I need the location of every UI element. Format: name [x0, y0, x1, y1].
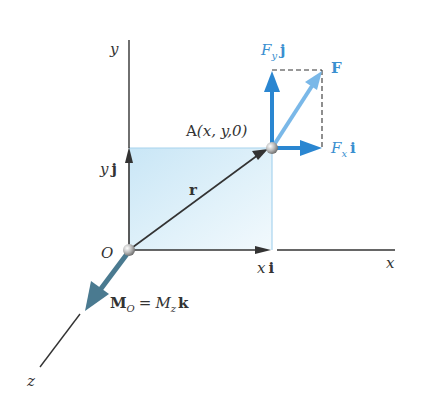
yj-var: y: [99, 160, 109, 178]
fx-var: F: [330, 139, 342, 157]
moment-equation-label: MO=Mzk: [110, 294, 189, 314]
fy-var: F: [260, 41, 272, 59]
moment-diagram: y x z O yj xi r A(x, y,0) Fyj F Fxi MO=M…: [0, 0, 425, 408]
z-axis-label: z: [26, 372, 35, 390]
yj-unit: j: [109, 160, 116, 178]
x-axis-label: x: [386, 254, 395, 272]
moment-unit: k: [178, 294, 189, 312]
f-resultant-label: F: [331, 59, 342, 77]
point-a-marker: [266, 142, 278, 154]
fy-unit: j: [278, 41, 285, 59]
moment-rhs: M: [154, 294, 171, 312]
point-a-label: A(x, y,0): [185, 122, 247, 140]
fy-sub: y: [270, 50, 277, 61]
yj-label: yj: [99, 160, 117, 178]
moment-equals: =: [139, 294, 152, 312]
fx-unit: i: [350, 139, 356, 157]
xi-unit: i: [268, 259, 274, 277]
y-axis-label: y: [109, 40, 119, 58]
fy-label: Fyj: [260, 41, 286, 61]
point-a-coords: (x, y,0): [197, 122, 248, 140]
z-axis: [40, 314, 80, 367]
point-a-name: A: [185, 122, 197, 140]
moment-lhs-sub: O: [127, 303, 135, 314]
origin-label: O: [101, 244, 113, 262]
fx-component-arrow: [272, 140, 322, 156]
moment-rhs-sub: z: [170, 303, 177, 314]
fx-label: Fxi: [330, 139, 356, 159]
resultant-force-arrow: [272, 71, 322, 148]
position-vector-label: r: [189, 181, 198, 199]
fx-sub: x: [341, 148, 347, 159]
moment-lhs: M: [110, 294, 127, 312]
xi-label: xi: [257, 259, 274, 277]
origin-marker: [123, 244, 135, 256]
xi-var: x: [257, 259, 266, 277]
